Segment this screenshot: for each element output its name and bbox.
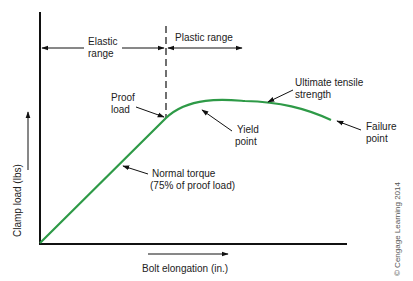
failure-point-pointer	[337, 121, 361, 130]
uts-label: Ultimate tensile	[295, 77, 364, 88]
failure-point-label: Failure	[366, 121, 397, 132]
failure-point-label-2: point	[366, 133, 388, 144]
uts-label-2: strength	[295, 89, 331, 100]
proof-load-label: Proof	[111, 92, 135, 103]
copyright-credit: © Cengage Learning 2014	[393, 181, 402, 276]
proof-load-pointer	[136, 107, 164, 117]
plastic-range-label: Plastic range	[175, 32, 233, 43]
yield-point-label: Yield	[237, 124, 259, 135]
normal-torque-label-2: (75% of proof load)	[150, 180, 235, 191]
x-axis-label: Bolt elongation (in.)	[142, 263, 228, 274]
normal-torque-pointer	[123, 166, 148, 174]
proof-load-label-2: load	[111, 104, 130, 115]
uts-pointer	[268, 90, 293, 102]
bolt-elongation-diagram: Clamp load (lbs) Bolt elongation (in.) E…	[0, 0, 413, 281]
normal-torque-label: Normal torque	[152, 168, 216, 179]
elastic-range-label: Elastic	[88, 36, 117, 47]
y-axis-label: Clamp load (lbs)	[12, 164, 23, 237]
yield-point-pointer	[202, 110, 232, 131]
yield-point-label-2: point	[235, 136, 257, 147]
elastic-range-label-2: range	[88, 48, 114, 59]
